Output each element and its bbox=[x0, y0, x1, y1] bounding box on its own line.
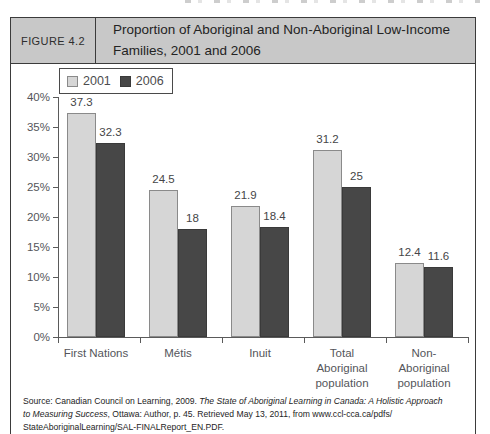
bar-value-label: 31.2 bbox=[316, 133, 338, 145]
y-axis-tick-label: 0% bbox=[11, 330, 50, 344]
legend-label: 2006 bbox=[136, 74, 164, 88]
bar-2001-inuit bbox=[231, 206, 260, 337]
y-axis-tick bbox=[53, 127, 58, 128]
bar-value-label: 11.6 bbox=[428, 250, 450, 262]
bar-value-label: 18.4 bbox=[263, 210, 285, 222]
legend-label: 2001 bbox=[83, 74, 111, 88]
bar-value-label: 24.5 bbox=[152, 173, 174, 185]
y-axis-tick bbox=[53, 307, 58, 308]
source-line: StateAboriginalLearning/SAL-FINALReport_… bbox=[23, 421, 471, 434]
x-axis-tick bbox=[140, 338, 141, 343]
bar-value-label: 18 bbox=[186, 212, 199, 224]
legend-swatch bbox=[67, 76, 78, 87]
figure-label: FIGURE 4.2 bbox=[11, 18, 96, 63]
figure-header: FIGURE 4.2 Proportion of Aboriginal and … bbox=[11, 18, 475, 64]
x-axis-tick bbox=[468, 338, 469, 343]
bar-2006-metis bbox=[178, 229, 207, 337]
x-axis-label-inuit: Inuit bbox=[249, 346, 271, 361]
x-axis-line bbox=[58, 337, 469, 338]
y-axis-tick bbox=[53, 157, 58, 158]
bar-value-label: 32.3 bbox=[99, 126, 121, 138]
source-text-italic: The State of Aboriginal Learning in Cana… bbox=[199, 396, 442, 406]
x-axis-tick bbox=[304, 338, 305, 343]
source-citation: Source: Canadian Council on Learning, 20… bbox=[23, 395, 471, 434]
cropped-page-text-artifact bbox=[185, 0, 480, 3]
y-axis-tick-label: 15% bbox=[11, 240, 50, 254]
figure-box: FIGURE 4.2 Proportion of Aboriginal and … bbox=[10, 17, 476, 434]
bar-2006-first-nations bbox=[96, 143, 125, 337]
source-text: , Ottawa: Author, p. 45. Retrieved May 1… bbox=[108, 409, 393, 419]
y-axis-tick bbox=[53, 97, 58, 98]
x-axis-label-first-nations: First Nations bbox=[64, 346, 129, 361]
bar-value-label: 21.9 bbox=[234, 189, 256, 201]
y-axis-tick-label: 35% bbox=[11, 120, 50, 134]
y-axis-tick-label: 30% bbox=[11, 150, 50, 164]
bar-2001-metis bbox=[149, 190, 178, 337]
y-axis-line bbox=[58, 97, 59, 338]
chart-area: 20012006 0%5%10%15%20%25%30%35%40%37.332… bbox=[11, 64, 475, 433]
source-text: StateAboriginalLearning/SAL-FINALReport_… bbox=[23, 422, 224, 432]
source-text: Source: Canadian Council on Learning, 20… bbox=[23, 396, 199, 406]
x-axis-tick bbox=[58, 338, 59, 343]
source-line: Source: Canadian Council on Learning, 20… bbox=[23, 395, 471, 408]
y-axis-tick bbox=[53, 277, 58, 278]
legend-item-2006: 2006 bbox=[120, 74, 164, 88]
legend-swatch bbox=[120, 76, 131, 87]
legend: 20012006 bbox=[59, 68, 173, 94]
x-axis-label-total-aboriginal-population: Total Aboriginal population bbox=[315, 346, 368, 392]
x-axis-label-non-aboriginal-population: Non-Aboriginal population bbox=[397, 346, 450, 392]
bar-value-label: 37.3 bbox=[70, 96, 92, 108]
x-axis-tick bbox=[222, 338, 223, 343]
bar-2006-total-aboriginal-population bbox=[342, 187, 371, 337]
y-axis-tick bbox=[53, 247, 58, 248]
x-axis-label-metis: Métis bbox=[164, 346, 191, 361]
bar-2006-non-aboriginal-population bbox=[424, 267, 453, 337]
figure-title: Proportion of Aboriginal and Non-Aborigi… bbox=[96, 18, 475, 63]
y-axis-tick-label: 10% bbox=[11, 270, 50, 284]
source-text-italic: to Measuring Success bbox=[23, 409, 108, 419]
bar-value-label: 12.4 bbox=[398, 246, 420, 258]
y-axis-tick bbox=[53, 217, 58, 218]
bar-chart: 0%5%10%15%20%25%30%35%40%37.332.3First N… bbox=[11, 64, 477, 433]
y-axis-tick-label: 25% bbox=[11, 180, 50, 194]
bar-2001-non-aboriginal-population bbox=[395, 263, 424, 337]
y-axis-tick bbox=[53, 187, 58, 188]
legend-item-2001: 2001 bbox=[67, 74, 111, 88]
y-axis-tick-label: 40% bbox=[11, 90, 50, 104]
bar-value-label: 25 bbox=[350, 170, 363, 182]
source-line: to Measuring Success, Ottawa: Author, p.… bbox=[23, 408, 471, 421]
bar-2001-first-nations bbox=[67, 113, 96, 337]
bar-2006-inuit bbox=[260, 227, 289, 337]
x-axis-tick bbox=[386, 338, 387, 343]
y-axis-tick-label: 5% bbox=[11, 300, 50, 314]
y-axis-tick-label: 20% bbox=[11, 210, 50, 224]
bar-2001-total-aboriginal-population bbox=[313, 150, 342, 337]
